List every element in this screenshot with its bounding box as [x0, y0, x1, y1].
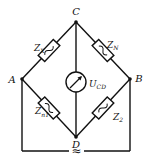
node-a-dot: [20, 77, 24, 81]
label-zn: ZN: [106, 40, 119, 51]
impedance-z2: [92, 97, 114, 119]
label-z2: Z2: [112, 112, 123, 123]
label-zx: ZX: [33, 43, 45, 54]
bridge-circuit-diagram: ≈ C A B D ZX ZN Zn1 Z2 UCD: [0, 0, 149, 157]
node-c-dot: [74, 20, 78, 24]
voltmeter: [66, 72, 86, 92]
label-ucd: UCD: [89, 79, 106, 90]
node-label-a: A: [7, 74, 15, 85]
node-b-dot: [128, 77, 132, 81]
node-label-d: D: [71, 139, 80, 150]
node-label-c: C: [72, 6, 80, 17]
node-label-b: B: [134, 73, 142, 84]
